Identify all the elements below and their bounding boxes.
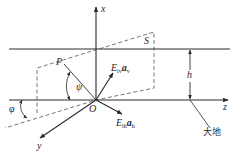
e-ih-label: Eihah <box>116 118 135 129</box>
plane-s-outline <box>5 32 154 128</box>
psi-angle-label: ψ <box>76 82 82 92</box>
ground-wave-geometry-diagram: x z y O S P h ψ φ Eivav Eihah 大地 <box>0 0 234 155</box>
ground-label: 大地 <box>203 128 221 137</box>
ground-leader-line <box>190 100 210 128</box>
plane-s-label: S <box>144 36 149 46</box>
x-axis-label: x <box>101 4 105 14</box>
e-iv-vector <box>96 73 113 100</box>
phi-angle-arc <box>21 100 27 118</box>
e-iv-label: Eivav <box>111 63 130 74</box>
e-ih-vector <box>96 100 122 114</box>
height-h-label: h <box>187 70 192 80</box>
y-axis <box>40 100 96 138</box>
origin-label: O <box>89 104 96 114</box>
y-axis-label: y <box>37 141 41 151</box>
psi-angle-arc <box>67 72 70 100</box>
point-p-label: P <box>56 57 62 67</box>
z-axis-label: z <box>223 102 227 112</box>
diagram-graphics <box>0 0 234 155</box>
phi-angle-label: φ <box>9 104 15 114</box>
